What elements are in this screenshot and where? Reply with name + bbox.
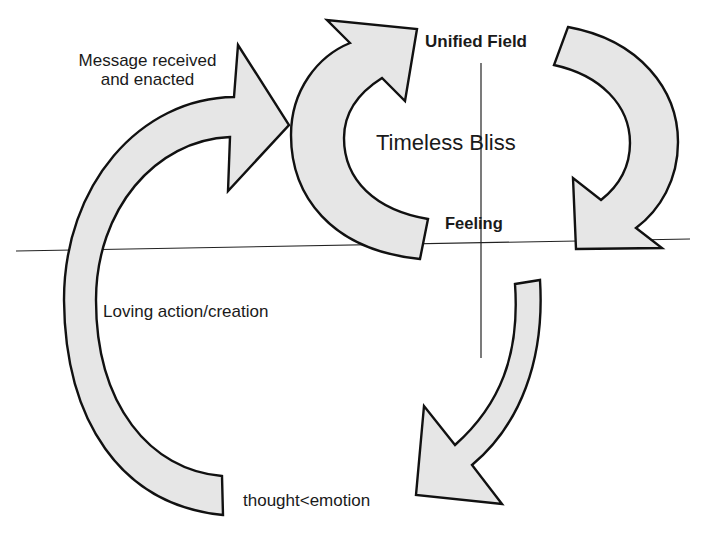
loving-action-arrow xyxy=(64,45,289,515)
unified-field-arrow xyxy=(554,27,678,249)
unified-field-label: Unified Field xyxy=(425,33,527,52)
message-label-line2: and enacted xyxy=(60,71,235,90)
loving-action-label: Loving action/creation xyxy=(103,303,268,322)
message-label-line1: Message received xyxy=(60,52,235,71)
thought-emotion-label: thought<emotion xyxy=(243,492,370,511)
message-received-label: Message received and enacted xyxy=(60,52,235,89)
timeless-bliss-label: Timeless Bliss xyxy=(376,131,516,155)
descending-arrow xyxy=(416,280,541,504)
feeling-label: Feeling xyxy=(445,214,503,232)
